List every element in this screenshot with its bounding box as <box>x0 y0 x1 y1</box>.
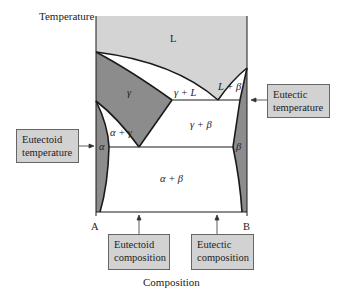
region-label-liquid: L <box>170 33 176 45</box>
x-axis-label: Composition <box>143 276 200 288</box>
region-label-alpha-gamma: α + γ <box>110 127 132 139</box>
component-a-label: A <box>91 221 99 233</box>
region-label-alpha-beta: α + β <box>160 173 183 185</box>
callout-eutectoid-temperature: Eutectoid temperature <box>16 129 79 163</box>
callout-eutectoid-composition: Eutectoid composition <box>108 234 170 270</box>
region-label-gamma-liquid: γ + L <box>174 87 196 99</box>
region-label-alpha: α <box>99 141 105 153</box>
region-label-liquid-beta: L + β <box>218 81 241 93</box>
region-label-gamma-beta: γ + β <box>190 119 212 131</box>
arrow-eutectic-composition <box>215 215 219 220</box>
region-label-beta: β <box>236 141 241 153</box>
arrow-eutectoid-temperature <box>89 144 94 148</box>
arrow-eutectic-temperature <box>251 98 256 102</box>
arrow-eutectoid-composition <box>137 215 141 220</box>
y-axis-label: Temperature <box>39 10 94 22</box>
callout-eutectic-composition: Eutectic composition <box>191 234 254 270</box>
component-b-label: B <box>243 221 250 233</box>
region-label-gamma: γ <box>127 87 131 99</box>
callout-eutectic-temperature: Eutectic temperature <box>267 84 330 118</box>
